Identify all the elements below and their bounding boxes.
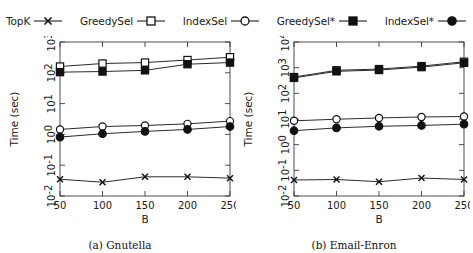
x-tick-label: 200: [412, 200, 431, 211]
data-point-greedysel-star: [99, 68, 106, 75]
x-axis-title: B: [141, 213, 148, 225]
y-tick-label: 10-1: [277, 159, 291, 182]
data-point-greedysel-star: [418, 64, 425, 71]
caption-email-enron: (b) Email-Enron: [238, 239, 470, 251]
data-point-greedysel-star: [184, 61, 191, 68]
data-point-indexsel-star: [184, 126, 192, 134]
data-point-indexsel: [290, 117, 297, 124]
data-point-indexsel-star: [290, 127, 298, 135]
y-tick-label: 100: [277, 135, 291, 154]
data-point-greedysel-star: [226, 59, 233, 66]
legend-entry-greedysel-star: GreedySel*: [277, 14, 368, 28]
data-point-indexsel-star: [460, 120, 468, 128]
svg-text:102: 102: [277, 84, 291, 103]
x-tick-label: 100: [93, 200, 112, 211]
chart-panel-gnutella: 10-210-110010110210350100150200250BTime …: [4, 36, 236, 253]
data-point-greedysel-star: [333, 68, 340, 75]
legend-entry-indexsel: IndexSel: [183, 14, 260, 28]
svg-text:102: 102: [43, 63, 57, 82]
y-tick-label: 103: [43, 36, 57, 52]
y-tick-label: 102: [43, 63, 57, 82]
x-tick-label: 150: [369, 200, 388, 211]
data-point-indexsel: [56, 126, 63, 133]
svg-text:103: 103: [277, 58, 291, 77]
svg-text:101: 101: [277, 109, 291, 128]
filled-square-icon: [338, 14, 368, 28]
svg-text:101: 101: [43, 94, 57, 113]
legend-label-greedysel: GreedySel: [80, 15, 133, 27]
data-point-greedysel-star: [460, 59, 467, 66]
data-point-greedysel-star: [56, 69, 63, 76]
data-point-greedysel-star: [375, 66, 382, 73]
y-axis-title: Time (sec): [242, 92, 254, 148]
x-tick-label: 50: [288, 200, 301, 211]
filled-circle-icon: [437, 14, 467, 28]
x-tick-label: 250: [454, 200, 470, 211]
data-point-indexsel: [460, 113, 467, 120]
data-point-greedysel: [99, 60, 106, 67]
open-square-icon: [136, 14, 166, 28]
figure-container: TopK GreedySel IndexSel GreedySel*: [0, 0, 473, 253]
data-point-indexsel-star: [99, 130, 107, 138]
chart-panel-email-enron: 10-210-110010110210310450100150200250BTi…: [238, 36, 470, 253]
svg-text:10-1: 10-1: [277, 159, 291, 182]
data-point-greedysel: [141, 59, 148, 66]
data-point-greedysel-star: [141, 67, 148, 74]
data-point-indexsel: [333, 116, 340, 123]
y-tick-label: 101: [277, 109, 291, 128]
plot-area-gnutella: 10-210-110010110210350100150200250BTime …: [4, 36, 236, 236]
data-point-indexsel-star: [56, 133, 64, 141]
data-point-indexsel: [418, 113, 425, 120]
x-tick-label: 100: [327, 200, 346, 211]
svg-text:103: 103: [43, 36, 57, 52]
legend-label-indexsel-star: IndexSel*: [385, 15, 434, 27]
caption-gnutella: (a) Gnutella: [4, 239, 236, 251]
svg-text:100: 100: [43, 125, 57, 144]
data-point-indexsel-star: [333, 124, 341, 132]
plot-area-email-enron: 10-210-110010110210310450100150200250BTi…: [238, 36, 470, 236]
svg-text:Time (sec): Time (sec): [242, 92, 254, 148]
x-tick-label: 50: [54, 200, 67, 211]
x-tick-label: 250: [220, 200, 236, 211]
data-point-indexsel-star: [375, 122, 383, 130]
y-tick-label: 103: [277, 58, 291, 77]
legend-entry-greedysel: GreedySel: [80, 14, 166, 28]
data-point-indexsel: [375, 114, 382, 121]
svg-text:104: 104: [277, 36, 291, 52]
y-tick-label: 104: [277, 36, 291, 52]
svg-text:100: 100: [277, 135, 291, 154]
legend-label-greedysel-star: GreedySel*: [277, 15, 335, 27]
data-point-indexsel-star: [418, 122, 426, 130]
y-tick-label: 102: [277, 84, 291, 103]
y-tick-label: 10-1: [43, 154, 57, 177]
x-tick-label: 150: [135, 200, 154, 211]
data-point-greedysel-star: [290, 74, 297, 81]
y-tick-label: 100: [43, 125, 57, 144]
y-axis-title: Time (sec): [8, 92, 20, 148]
data-point-indexsel: [99, 123, 106, 130]
legend-entry-indexsel-star: IndexSel*: [385, 14, 467, 28]
data-point-indexsel-star: [141, 128, 149, 136]
legend-entry-topk: TopK: [6, 14, 63, 28]
svg-text:Time (sec): Time (sec): [8, 92, 20, 148]
open-circle-icon: [230, 14, 260, 28]
data-point-indexsel-star: [226, 123, 234, 131]
svg-text:10-1: 10-1: [43, 154, 57, 177]
legend-label-indexsel: IndexSel: [183, 15, 227, 27]
legend-label-topk: TopK: [6, 15, 30, 27]
x-axis-title: B: [375, 213, 382, 225]
chart-legend: TopK GreedySel IndexSel GreedySel*: [0, 8, 473, 34]
x-tick-label: 200: [178, 200, 197, 211]
y-tick-label: 101: [43, 94, 57, 113]
cross-icon: [33, 14, 63, 28]
